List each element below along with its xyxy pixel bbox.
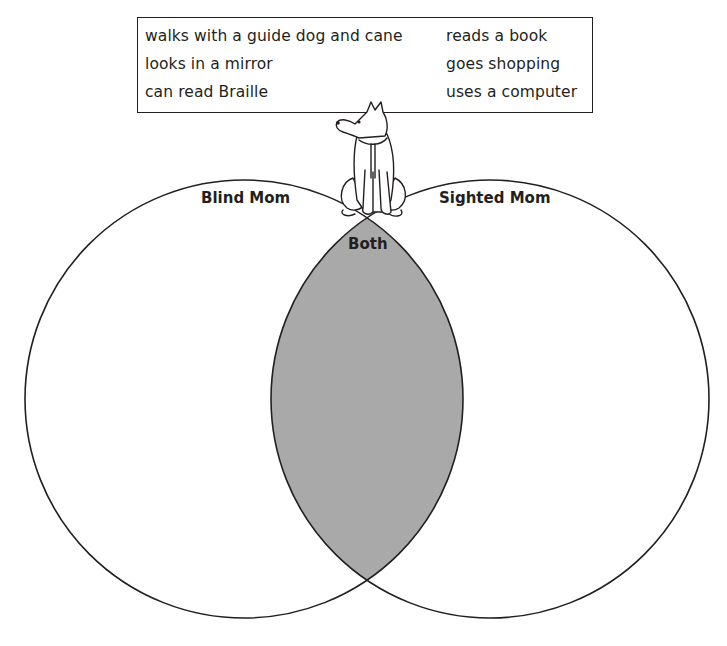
overlap-region: [271, 180, 709, 618]
word-bank-right-column: reads a book goes shopping uses a comput…: [446, 22, 577, 106]
right-circle-label: Sighted Mom: [439, 189, 551, 207]
word-bank-item: looks in a mirror: [145, 50, 403, 78]
left-circle-label: Blind Mom: [201, 189, 290, 207]
word-bank-item: goes shopping: [446, 50, 577, 78]
overlap-label: Both: [348, 235, 388, 253]
word-bank-left-column: walks with a guide dog and cane looks in…: [145, 22, 403, 106]
guide-dog-icon: [325, 100, 415, 222]
word-bank-item: walks with a guide dog and cane: [145, 22, 403, 50]
word-bank-item: uses a computer: [446, 78, 577, 106]
word-bank-box: walks with a guide dog and cane looks in…: [137, 17, 593, 113]
word-bank-item: reads a book: [446, 22, 577, 50]
